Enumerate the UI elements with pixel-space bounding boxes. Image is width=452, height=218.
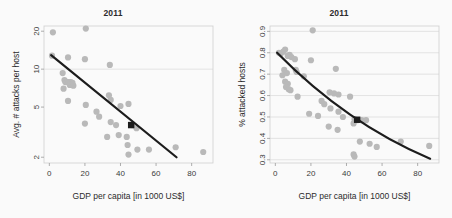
x-tick-label: 40 (342, 169, 351, 178)
data-point (107, 62, 113, 68)
y-tick-label: 0.4 (258, 132, 267, 144)
x-tick-label: 60 (152, 169, 161, 178)
y-axis-title: Avg. # attacks per host (11, 51, 21, 138)
y-tick-label: 0.5 (258, 111, 267, 123)
fit-line (51, 55, 176, 157)
x-axis-title: GDP per capita [in 1000 US$] (299, 191, 411, 201)
panel-attacked-hosts: 2011 0204060800.30.40.50.60.70.80.9GDP p… (226, 0, 452, 218)
data-point (333, 66, 339, 72)
data-point (117, 103, 123, 109)
data-point (125, 151, 131, 157)
data-point (65, 98, 71, 104)
data-point (374, 144, 380, 150)
y-tick-label: 0.8 (258, 47, 267, 59)
data-point (125, 142, 131, 148)
data-point (60, 86, 66, 92)
data-point (287, 87, 293, 93)
panel-title-right: 2011 (226, 8, 452, 18)
data-point (113, 122, 119, 128)
data-point (335, 91, 341, 97)
data-point (335, 109, 341, 115)
y-tick-label: 0.7 (258, 68, 267, 80)
x-tick-label: 60 (378, 169, 387, 178)
x-tick-label: 20 (306, 169, 315, 178)
data-point (146, 146, 152, 152)
x-tick-label: 80 (413, 169, 422, 178)
data-point (173, 144, 179, 150)
data-point (70, 83, 76, 89)
data-point (310, 27, 316, 33)
data-point (60, 70, 66, 76)
x-tick-label: 40 (116, 169, 125, 178)
data-point (104, 134, 110, 140)
data-point (83, 25, 89, 31)
data-point (321, 101, 327, 107)
chart-svg-left: 020406080251020GDP per capita [in 1000 U… (0, 0, 226, 218)
highlight-marker (128, 122, 134, 128)
data-point (279, 72, 285, 78)
x-tick-label: 0 (47, 169, 52, 178)
data-point (134, 146, 140, 152)
data-point (96, 114, 102, 120)
y-tick-label: 0.9 (258, 25, 267, 37)
data-point (292, 56, 298, 62)
fit-curve (277, 53, 430, 159)
x-axis-title: GDP per capita [in 1000 US$] (73, 191, 185, 201)
data-point (108, 119, 114, 125)
data-point (315, 113, 321, 119)
data-point (125, 101, 131, 107)
data-point (116, 132, 122, 138)
data-point (65, 54, 71, 60)
data-point (82, 120, 88, 126)
y-tick-label: 0.6 (258, 89, 267, 101)
panel-attacks-per-host: 2011 020406080251020GDP per capita [in 1… (0, 0, 226, 218)
x-tick-label: 80 (187, 169, 196, 178)
data-point (363, 117, 369, 123)
data-point (335, 127, 341, 133)
data-point (280, 49, 286, 55)
y-tick-label: 5 (32, 104, 41, 109)
data-point (82, 56, 88, 62)
x-tick-label: 20 (80, 169, 89, 178)
y-tick-label: 2 (32, 154, 41, 159)
y-tick-label: 20 (32, 26, 41, 35)
data-point (367, 141, 373, 147)
data-point (357, 138, 363, 144)
data-point (308, 57, 314, 63)
data-point (50, 29, 56, 35)
data-point (200, 149, 206, 155)
panel-title-left: 2011 (0, 8, 226, 18)
data-point (124, 134, 130, 140)
data-point (347, 94, 353, 100)
data-point (306, 111, 312, 117)
data-point (327, 105, 333, 111)
x-tick-label: 0 (273, 169, 278, 178)
data-point (83, 102, 89, 108)
highlight-marker (354, 117, 360, 123)
chart-svg-right: 0204060800.30.40.50.60.70.80.9GDP per ca… (226, 0, 452, 218)
data-point (426, 143, 432, 149)
y-axis-title: % attacked hosts (237, 62, 247, 127)
data-point (294, 94, 300, 100)
y-tick-label: 0.3 (258, 154, 267, 166)
data-point (351, 153, 357, 159)
data-point (326, 124, 332, 130)
figure-container: 2011 020406080251020GDP per capita [in 1… (0, 0, 452, 218)
data-point (340, 114, 346, 120)
y-tick-label: 10 (32, 64, 41, 73)
